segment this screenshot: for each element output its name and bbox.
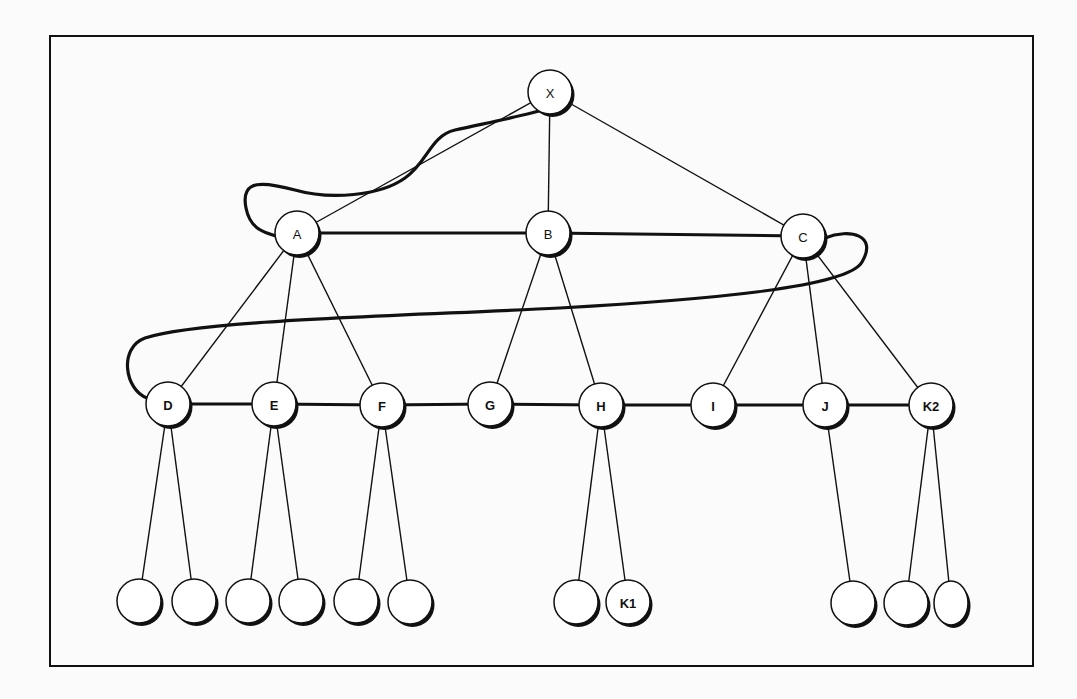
node-x: X: [528, 70, 575, 117]
node-circle: [279, 579, 323, 623]
node-i: I: [691, 383, 738, 430]
node-leaf-d1: [117, 579, 164, 626]
node-circle: [884, 581, 928, 625]
node-f: F: [360, 383, 407, 430]
figure-frame: [50, 36, 1033, 666]
node-d: D: [146, 382, 193, 429]
thin-edge-x-c: [550, 92, 803, 236]
node-circle: [554, 580, 598, 624]
thin-edge-k2-k2b: [931, 405, 951, 603]
thin-edge-k2-k2a: [906, 405, 931, 603]
node-leaf-k2b: [934, 581, 971, 628]
thin-edge-f-f2: [382, 405, 410, 602]
nodes: XABCDEFGHIJK2K1: [117, 70, 971, 628]
node-circle: [334, 579, 378, 623]
node-leaf-e1: [226, 579, 273, 626]
thin-edges: [139, 92, 951, 603]
node-g: G: [468, 382, 515, 429]
node-label: G: [485, 398, 495, 413]
thin-edge-c-i: [713, 236, 803, 405]
traversal-curve: [127, 100, 866, 398]
node-c: C: [781, 214, 828, 261]
node-k2: K2: [909, 383, 956, 430]
node-k1: K1: [606, 580, 653, 627]
node-h: H: [579, 383, 626, 430]
node-label: H: [596, 399, 605, 414]
thin-edge-h-h1: [576, 405, 601, 602]
node-circle: [226, 579, 270, 623]
thin-edge-x-a: [297, 92, 550, 233]
thick-edges: [168, 233, 931, 405]
node-label: X: [546, 86, 555, 101]
node-leaf-k2a: [884, 581, 931, 628]
node-leaf-f2: [388, 580, 435, 627]
node-leaf-e2: [279, 579, 326, 626]
node-circle: [172, 579, 216, 623]
node-leaf-d2: [172, 579, 219, 626]
node-label: A: [293, 227, 302, 242]
node-label: J: [821, 399, 828, 414]
node-label: F: [378, 399, 386, 414]
node-circle: [831, 581, 875, 625]
node-a: A: [275, 211, 322, 258]
thin-edge-d-d2: [168, 404, 194, 601]
thin-edge-h-k1: [601, 405, 628, 602]
node-b: B: [526, 211, 573, 258]
thin-edge-e-e1: [248, 404, 274, 601]
thick-edge-b-c: [548, 233, 803, 236]
node-label: C: [798, 230, 807, 245]
tree-diagram: XABCDEFGHIJK2K1: [0, 0, 1077, 699]
thin-edge-b-g: [490, 233, 548, 404]
thin-edge-b-h: [548, 233, 601, 405]
node-label: B: [544, 227, 553, 242]
thin-edge-e-e2: [274, 404, 301, 601]
node-circle: [117, 579, 161, 623]
node-circle: [934, 581, 968, 625]
node-e: E: [252, 382, 299, 429]
node-label: I: [711, 399, 715, 414]
node-label: D: [163, 398, 172, 413]
node-leaf-h1: [554, 580, 601, 627]
thin-edge-f-f1: [356, 405, 382, 601]
node-label: E: [270, 398, 279, 413]
node-label: K2: [923, 399, 940, 414]
thin-edge-j-j1: [825, 405, 853, 603]
thin-edge-d-d1: [139, 404, 168, 601]
node-j: J: [803, 383, 850, 430]
node-leaf-f1: [334, 579, 381, 626]
node-leaf-j1: [831, 581, 878, 628]
node-label: K1: [620, 596, 637, 611]
node-circle: [388, 580, 432, 624]
